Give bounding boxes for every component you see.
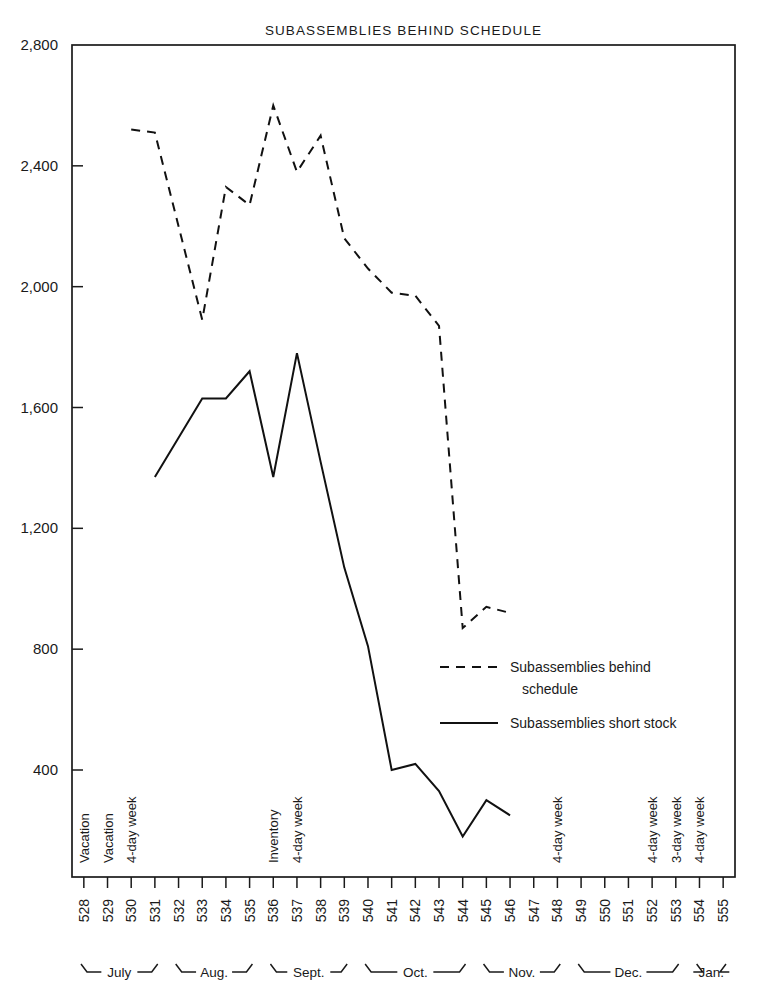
x-axis-label: 529 xyxy=(100,899,116,923)
x-axis-label: 552 xyxy=(644,899,660,923)
x-axis-label: 539 xyxy=(336,899,352,923)
plot-annotation: Vacation xyxy=(101,813,116,863)
x-axis-label: 538 xyxy=(313,899,329,923)
plot-annotation: 3-day week xyxy=(669,796,684,863)
plot-annotation: 4-day week xyxy=(550,796,565,863)
x-axis-label: 546 xyxy=(502,899,518,923)
y-axis-label: 400 xyxy=(33,761,58,778)
month-label: Jan. xyxy=(699,965,725,980)
legend-label-solid: Subassemblies short stock xyxy=(510,715,678,731)
x-axis-label: 548 xyxy=(549,899,565,923)
y-axis-label: 1,200 xyxy=(20,519,58,536)
x-axis-label: 547 xyxy=(526,899,542,923)
x-axis-label: 530 xyxy=(123,899,139,923)
series-dashed xyxy=(131,105,510,628)
x-axis-label: 540 xyxy=(360,899,376,923)
x-axis-label: 534 xyxy=(218,899,234,923)
legend-label-dashed-line2: schedule xyxy=(522,681,578,697)
x-axis-label: 553 xyxy=(668,899,684,923)
plot-annotation: Inventory xyxy=(266,809,281,863)
subassemblies-line-chart: SUBASSEMBLIES BEHIND SCHEDULE2,8002,4002… xyxy=(0,0,766,983)
x-axis-label: 555 xyxy=(715,899,731,923)
plot-annotation: 4-day week xyxy=(124,796,139,863)
y-axis-label: 800 xyxy=(33,640,58,657)
month-label: Aug. xyxy=(200,965,228,980)
month-label: Oct. xyxy=(403,965,428,980)
y-axis-label: 2,400 xyxy=(20,157,58,174)
plot-annotation: Vacation xyxy=(77,813,92,863)
month-label: Sept. xyxy=(293,965,325,980)
x-axis-label: 543 xyxy=(431,899,447,923)
x-axis-label: 542 xyxy=(407,899,423,923)
chart-title: SUBASSEMBLIES BEHIND SCHEDULE xyxy=(265,23,542,38)
x-axis-label: 533 xyxy=(194,899,210,923)
x-axis-label: 554 xyxy=(691,899,707,923)
x-axis-label: 537 xyxy=(289,899,305,923)
y-axis-label: 2,000 xyxy=(20,278,58,295)
x-axis-label: 549 xyxy=(573,899,589,923)
y-axis-label: 2,800 xyxy=(20,36,58,53)
month-label: Dec. xyxy=(615,965,643,980)
plot-annotation: 4-day week xyxy=(645,796,660,863)
plot-frame xyxy=(72,45,735,877)
x-axis-label: 541 xyxy=(384,899,400,923)
x-axis-label: 535 xyxy=(242,899,258,923)
x-axis-label: 551 xyxy=(620,899,636,923)
month-label: July xyxy=(107,965,131,980)
chart-container: SUBASSEMBLIES BEHIND SCHEDULE2,8002,4002… xyxy=(0,0,766,983)
x-axis-label: 536 xyxy=(265,899,281,923)
month-label: Nov. xyxy=(509,965,536,980)
x-axis-label: 528 xyxy=(76,899,92,923)
plot-annotation: 4-day week xyxy=(290,796,305,863)
x-axis-label: 545 xyxy=(478,899,494,923)
x-axis-label: 550 xyxy=(597,899,613,923)
legend-label-dashed: Subassemblies behind xyxy=(510,659,651,675)
series-solid xyxy=(155,353,510,836)
x-axis-label: 531 xyxy=(147,899,163,923)
plot-annotation: 4-day week xyxy=(692,796,707,863)
x-axis-label: 532 xyxy=(171,899,187,923)
y-axis-label: 1,600 xyxy=(20,399,58,416)
x-axis-label: 544 xyxy=(455,899,471,923)
